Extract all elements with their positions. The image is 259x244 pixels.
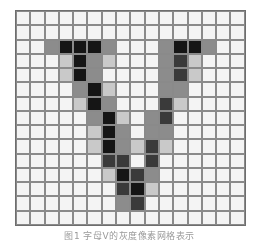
grid-cell — [116, 139, 130, 153]
grid-cell — [159, 25, 173, 39]
grid-cell — [130, 11, 144, 25]
grid-cell — [116, 125, 130, 139]
grid-cell — [116, 97, 130, 111]
grid-cell — [73, 139, 87, 153]
grid-cell — [87, 139, 101, 153]
grid-cell — [230, 11, 244, 25]
grid-cell — [216, 111, 230, 125]
grid-cell — [202, 182, 216, 196]
grid-cell — [216, 182, 230, 196]
grid-cell — [173, 11, 187, 25]
grid-cell — [230, 139, 244, 153]
grid-cell — [188, 168, 202, 182]
grid-cell — [145, 40, 159, 54]
grid-cell — [145, 168, 159, 182]
grid-cell — [230, 154, 244, 168]
grid-cell — [202, 111, 216, 125]
grid-cell — [45, 68, 59, 82]
grid-cell — [102, 40, 116, 54]
grid-cell — [30, 40, 44, 54]
grid-cell — [216, 125, 230, 139]
grid-cell — [188, 25, 202, 39]
grid-cell — [216, 25, 230, 39]
grid-cell — [173, 139, 187, 153]
grid-cell — [216, 97, 230, 111]
grid-cell — [202, 168, 216, 182]
grid-cell — [116, 154, 130, 168]
grid-cell — [202, 82, 216, 96]
grid-cell — [145, 125, 159, 139]
grid-cell — [116, 82, 130, 96]
grid-cell — [202, 125, 216, 139]
grid-cell — [188, 111, 202, 125]
grid-cell — [102, 211, 116, 225]
grid-cell — [102, 139, 116, 153]
grid-cell — [145, 97, 159, 111]
grid-cell — [16, 40, 30, 54]
grid-cell — [87, 196, 101, 210]
grid-cell — [202, 54, 216, 68]
grid-cell — [116, 111, 130, 125]
grid-cell — [202, 154, 216, 168]
grid-cell — [130, 54, 144, 68]
grid-cell — [188, 125, 202, 139]
grid-cell — [30, 54, 44, 68]
grid-cell — [145, 82, 159, 96]
grid-cell — [145, 25, 159, 39]
grid-cell — [102, 25, 116, 39]
grid-cell — [16, 182, 30, 196]
grid-cell — [102, 68, 116, 82]
grid-cell — [16, 54, 30, 68]
grid-cell — [188, 211, 202, 225]
grid-cell — [102, 154, 116, 168]
grid-cell — [188, 54, 202, 68]
grid-cell — [87, 40, 101, 54]
grid-cell — [16, 211, 30, 225]
grid-cell — [16, 25, 30, 39]
grid-cell — [159, 182, 173, 196]
grid-cell — [116, 168, 130, 182]
grid-cell — [230, 125, 244, 139]
grid-cell — [73, 154, 87, 168]
grid-cell — [102, 168, 116, 182]
grid-cell — [102, 97, 116, 111]
grid-cell — [87, 25, 101, 39]
grid-cell — [173, 82, 187, 96]
grid-cell — [73, 11, 87, 25]
grid-cell — [30, 182, 44, 196]
grid-cell — [159, 139, 173, 153]
grid-cell — [173, 154, 187, 168]
grid-cell — [216, 40, 230, 54]
grid-cell — [87, 111, 101, 125]
grid-cell — [130, 25, 144, 39]
grid-cell — [230, 196, 244, 210]
grid-cell — [73, 111, 87, 125]
grid-cell — [59, 25, 73, 39]
grid-cell — [59, 182, 73, 196]
grid-cell — [16, 97, 30, 111]
grid-cell — [216, 168, 230, 182]
grid-cell — [202, 11, 216, 25]
grid-cell — [45, 25, 59, 39]
grid-cell — [188, 139, 202, 153]
grid-cell — [216, 211, 230, 225]
grid-cell — [87, 182, 101, 196]
grid-cell — [102, 196, 116, 210]
grid-cell — [73, 82, 87, 96]
grid-cell — [130, 139, 144, 153]
grid-cell — [16, 82, 30, 96]
grid-cell — [173, 111, 187, 125]
grid-cell — [130, 68, 144, 82]
grid-cell — [130, 211, 144, 225]
grid-cell — [87, 168, 101, 182]
figure-caption: 图1 字母V的灰度像素网格表示 — [0, 229, 259, 242]
grid-cell — [173, 168, 187, 182]
grid-cell — [230, 68, 244, 82]
grid-cell — [59, 11, 73, 25]
grid-cell — [59, 211, 73, 225]
grid-cell — [188, 68, 202, 82]
grid-cell — [216, 54, 230, 68]
grid-cell — [30, 11, 44, 25]
grid-cell — [59, 97, 73, 111]
grid-cell — [30, 139, 44, 153]
